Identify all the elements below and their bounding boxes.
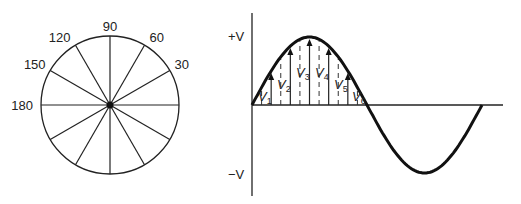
diagram-canvas: 906030120150180 +V −V V1V2V3V4V5V6 <box>0 0 521 204</box>
circle-spoke <box>50 105 110 140</box>
v-label-4: V4 <box>315 65 329 82</box>
circle-spoke <box>110 71 170 106</box>
circle-spoke <box>110 105 145 165</box>
neg-v-label: −V <box>228 167 245 182</box>
angle-label: 30 <box>174 57 188 72</box>
v-label-6: V6 <box>352 89 366 106</box>
angle-label: 60 <box>150 30 164 45</box>
sine-wave-plot: +V −V V1V2V3V4V5V6 <box>228 13 503 196</box>
angle-label: 90 <box>103 19 117 34</box>
angle-label: 120 <box>49 30 71 45</box>
phasor-circle: 906030120150180 <box>11 19 189 174</box>
arrow-head-icon <box>307 39 313 46</box>
v-label-2: V2 <box>277 77 291 94</box>
v-label-1: V1 <box>258 89 272 106</box>
v-label-3: V3 <box>296 65 310 82</box>
circle-spoke <box>76 105 111 165</box>
circle-center-dot <box>107 102 114 109</box>
circle-spoke <box>50 71 110 106</box>
circle-spoke <box>110 105 170 140</box>
angle-label: 180 <box>11 98 33 113</box>
pos-v-label: +V <box>228 29 245 44</box>
circle-spoke <box>110 45 145 105</box>
circle-spoke <box>76 45 111 105</box>
angle-label: 150 <box>24 57 46 72</box>
